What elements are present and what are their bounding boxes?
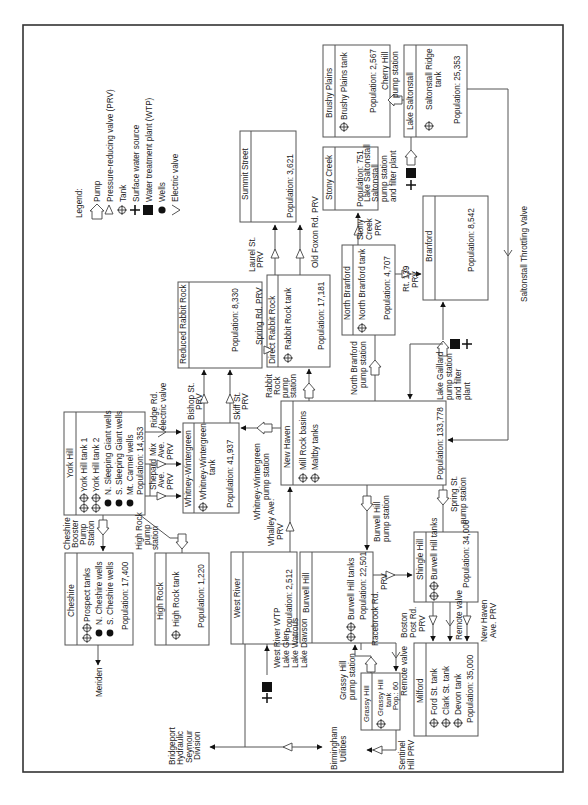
label-north-branford-pump: pump station (359, 341, 368, 388)
label-west-river-wtp: Lake Dawson (300, 618, 309, 668)
label-mix-ave-prv: Ave. (157, 442, 166, 458)
label-cheshire-booster: Station (87, 520, 96, 546)
zone-tank: Saltonstall Ridge (425, 48, 434, 110)
zone-name: Direct Rabbit Rock (268, 295, 277, 364)
zone-name: Whitney-Wintergreen (184, 430, 193, 507)
label-meriden: Meriden (95, 667, 104, 697)
zone-whitney-wintergreen: Whitney-Wintergreen Whitney-Wintergreen … (183, 423, 239, 513)
label-stony-creek-prv: Stony (356, 218, 365, 240)
label-burwell-pump: Burwell Hill (373, 501, 382, 542)
label-remote-valve-right: Remote valve (455, 589, 464, 640)
zone-west-river: West River Population: 2,512 (231, 552, 297, 644)
zone-name: York Hill (66, 448, 75, 478)
zone-branford: Branford Population: 8,542 (423, 196, 488, 300)
label-rt139-prv: PRV (411, 271, 420, 288)
zone-name: Burwell Hill (302, 572, 311, 613)
surface-water-plus-icon (130, 205, 140, 215)
zone-burwell-hill: Burwell Hill Burwell Hill tanks Populati… (300, 551, 373, 643)
zone-name: Shingle Hill (416, 539, 425, 580)
zone-tank: North Branford tank (358, 248, 367, 320)
zone-population: Population: 17,181 (317, 281, 326, 350)
label-lake-gaillard: Lake Gaillard (436, 351, 445, 400)
label-bridgeport: Hydraulic (176, 731, 185, 765)
zone-name: Reduced Rabbit Rock (179, 283, 188, 364)
zone-population: Population: 35,000 (466, 654, 475, 723)
pump-icon (90, 204, 104, 219)
label-birmingham: Birmingham (330, 726, 339, 770)
zone-name: North Branford (343, 266, 352, 320)
zone-york-hill: York Hill York Hill tank 1 York Hill tan… (64, 410, 145, 515)
label-rabbit-rock-pump: station (289, 373, 298, 398)
zone-population: Pop.: 60 (391, 682, 400, 710)
zone-name: High Rock (156, 581, 165, 620)
zone-item: York Hill tank 1 (80, 437, 89, 492)
zone-item: N. Cheshire wells (95, 561, 104, 625)
zone-item: Prospect tanks (83, 568, 92, 622)
legend-label-prv: Pressure-reducing valve (PRV) (106, 89, 115, 202)
zone-population: Population: 22,501 (359, 551, 368, 620)
prv-triangle-icon (105, 205, 113, 214)
label-lake-gaillard: and filter (454, 368, 463, 400)
zone-population: Population: 2,567 (369, 49, 378, 113)
label-rt139-prv: Rt. 139 (402, 265, 411, 292)
zone-item: Clark St. tank (442, 665, 451, 715)
water-system-diagram: Legend: Pump Pressure-reducing valve (PR… (0, 0, 588, 805)
zone-brushy-plains: Brushy Plains Brushy Plains tank Populat… (323, 45, 390, 137)
legend-label-tank: Tank (119, 184, 128, 202)
label-cherry-hill: pump station (391, 51, 400, 98)
zone-population: Population: 41,937 (226, 439, 235, 508)
label-burwell-pump: pump station (382, 495, 391, 542)
zone-population: Population: 3,621 (286, 154, 295, 218)
legend-label-wells: Wells (158, 182, 167, 202)
label-ridge-rd: Ridge Rd. (150, 392, 159, 428)
legend-label-electric: Electric valve (171, 153, 180, 202)
zone-item: Mill Rock basins (299, 411, 308, 470)
label-whalley-prv: PRV (276, 523, 285, 540)
legend-label-surface: Surface water source (132, 124, 141, 202)
zone-item: N. Sleeping Giant wells (104, 410, 113, 495)
label-ridge-rd: electric valve (159, 382, 168, 430)
label-north-branford-pump: North Branford (350, 341, 359, 395)
label-boston-post-prv: Boston (400, 612, 409, 638)
label-bishop-prv: PRV (195, 393, 204, 410)
zone-population: Population: 14,353 (136, 426, 145, 495)
zone-tank: Burwell Hill tanks (430, 518, 439, 580)
label-west-river-wtp: Lake Glen (282, 630, 291, 668)
zone-tank-line2: tank (208, 459, 217, 475)
zone-tank: Rabbit Rock tank (284, 287, 293, 350)
electric-valve-chevron-icon (172, 205, 180, 215)
zone-name: New Haven (283, 425, 292, 468)
zone-tank: Whitney-Wintergreen (199, 423, 208, 500)
zone-item: York Hill tank 2 (92, 437, 101, 492)
label-sentinel-prv: Sentinel (398, 740, 407, 770)
label-grassy-hill-pump: Grassy Hill (339, 660, 348, 700)
zone-population: Population: 4,707 (383, 256, 392, 320)
label-lake-gaillard: pump station (445, 353, 454, 400)
zone-name: Cheshire (67, 584, 76, 617)
zone-reduced-rabbit-rock: Reduced Rabbit Rock Population: 8,330 (178, 282, 262, 368)
well-dot-icon (158, 206, 165, 213)
label-ww-pump: pump station (262, 453, 271, 500)
zone-north-branford: North Branford North Branford tank Popul… (342, 245, 395, 335)
tank-icon (117, 205, 127, 215)
zone-population: Population: 133,778 (436, 407, 445, 480)
zone-population: Population: 34,000 (462, 519, 471, 588)
label-shepard-ave-prv: PRV (166, 473, 175, 490)
label-whalley-prv: Whalley Ave. (267, 499, 276, 546)
zone-item: Ford St. tank (430, 667, 439, 715)
label-cherry-hill: Cherry Hill (381, 52, 390, 90)
zone-new-haven: New Haven Mill Rock basins Maltby tanks … (281, 401, 446, 485)
zone-population: Population: 17,400 (121, 561, 130, 630)
zone-item: Devon tank (454, 673, 463, 715)
label-racebrook-prv: Racebrook Rd. (371, 591, 380, 646)
zone-tank: High Rock tank (172, 571, 181, 627)
label-new-haven-ave-prv: Ave. PRV (489, 602, 498, 638)
zone-item: S. Cheshire wells (106, 562, 115, 625)
zone-name: Brushy Plains (325, 68, 334, 118)
zone-grassy-hill: Grassy Hill Grassy Hill tank Pop.: 60 (361, 673, 400, 730)
label-shepard-ave-prv: Ave. (157, 472, 166, 488)
label-boston-post-prv: PRV (418, 615, 427, 632)
label-old-foxon-prv: Old Foxon Rd. PRV (311, 196, 320, 268)
zone-milford: Milford Ford St. tank Clark St. tank Dev… (414, 643, 478, 736)
zone-name: Milford (416, 678, 425, 703)
